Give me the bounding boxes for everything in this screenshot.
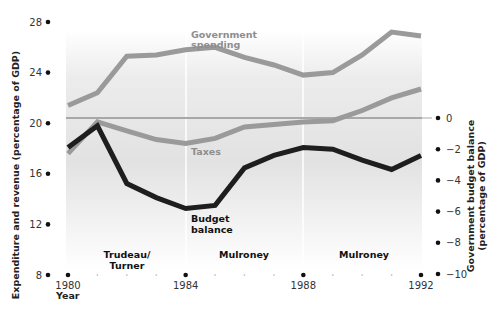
y-tick-label: 28: [29, 17, 42, 28]
y2-tick-dot: [436, 209, 441, 214]
y-tick-label: 24: [29, 67, 42, 78]
y2-tick-dot: [436, 241, 441, 246]
y2-tick-dot: [436, 272, 441, 277]
y-axis-title: Expenditure and revenue (percentage of G…: [10, 51, 21, 299]
era-label-mulroney-2: Mulroney: [339, 249, 390, 260]
x-tick-dot: [301, 273, 306, 278]
y-tick-label: 16: [29, 168, 42, 179]
y2-tick-label: −8: [446, 237, 461, 248]
x-minor-tick: [214, 274, 216, 276]
x-minor-tick: [155, 274, 157, 276]
y2-tick-label: 0: [446, 113, 452, 124]
x-minor-tick: [126, 274, 128, 276]
y-tick-dot: [46, 172, 51, 177]
y-tick-label: 12: [29, 219, 42, 230]
y2-axis-title-line1: Government budget balance: [465, 120, 476, 273]
y2-tick-label: −4: [446, 175, 461, 186]
y2-axis-title-line2: (percentage of GDP): [476, 141, 487, 251]
y2-tick-dot: [436, 116, 441, 121]
y-tick-dot: [46, 273, 51, 278]
x-minor-tick: [97, 274, 99, 276]
era-label-trudeau-1: Trudeau/: [104, 249, 151, 260]
x-minor-tick: [391, 274, 393, 276]
budget-chart: 28242016128 0−2−4−6−8−10 198019841988199…: [0, 0, 502, 315]
taxes-label: Taxes: [191, 146, 221, 157]
x-axis-title: Year: [55, 290, 80, 301]
y-tick-label: 20: [29, 118, 42, 129]
x-minor-tick: [332, 274, 334, 276]
x-tick-label: 1984: [173, 280, 198, 291]
x-minor-tick: [273, 274, 275, 276]
era-label-trudeau-2: Turner: [110, 260, 145, 271]
y2-tick-label: −6: [446, 206, 461, 217]
y-tick-dot: [46, 222, 51, 227]
y-tick-dot: [46, 121, 51, 126]
era-label-mulroney-1: Mulroney: [219, 249, 270, 260]
left-y-axis: 28242016128: [29, 17, 50, 281]
y-tick-dot: [46, 20, 51, 25]
gov-spending-label-2: spending: [191, 39, 240, 50]
x-tick-label: 1988: [291, 280, 316, 291]
x-tick-dot: [419, 273, 424, 278]
x-tick-label: 1992: [408, 280, 433, 291]
budget-label-1: Budget: [191, 213, 230, 224]
y2-tick-dot: [436, 178, 441, 183]
x-axis: 1980198419881992: [55, 273, 433, 291]
x-minor-tick: [244, 274, 246, 276]
y-tick-label: 8: [36, 270, 42, 281]
y2-tick-label: −2: [446, 144, 461, 155]
x-tick-dot: [66, 273, 71, 278]
y-tick-dot: [46, 70, 51, 75]
right-y-axis: 0−2−4−6−8−10: [436, 113, 467, 280]
x-minor-tick: [361, 274, 363, 276]
x-tick-dot: [183, 273, 188, 278]
y2-tick-dot: [436, 147, 441, 152]
budget-label-2: balance: [191, 224, 233, 235]
y2-tick-label: −10: [446, 269, 467, 280]
